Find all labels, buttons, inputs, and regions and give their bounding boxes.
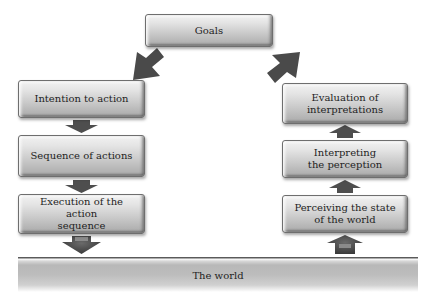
interpreting-the-perception-box: Interpreting the perception: [282, 140, 408, 178]
evaluation-line-1: Evaluation of: [307, 92, 383, 104]
arrow-interpreting-to-evaluation-icon: [329, 125, 361, 138]
perceiving-line-2: of the world: [294, 214, 395, 226]
interpreting-line-1: Interpreting: [308, 147, 382, 159]
intention-to-action-box: Intention to action: [18, 80, 145, 118]
evaluation-of-interpretations-box: Evaluation of interpretations: [282, 83, 408, 124]
sequence-of-actions-label: Sequence of actions: [25, 150, 139, 162]
arrow-perceiving-to-interpreting-icon: [329, 180, 361, 193]
arrow-intention-to-sequence-icon: [65, 120, 98, 133]
world-bar: The world: [18, 257, 418, 292]
interpreting-line-2: the perception: [308, 159, 382, 171]
execution-line-1: Execution of the action: [25, 196, 138, 220]
world-label: The world: [192, 270, 243, 281]
sequence-of-actions-box: Sequence of actions: [18, 135, 145, 177]
execution-of-action-sequence-box: Execution of the action sequence: [18, 194, 145, 234]
evaluation-line-2: interpretations: [307, 104, 383, 116]
arrow-goals-to-intention-icon: [133, 48, 164, 80]
goals-label: Goals: [189, 25, 229, 37]
arrow-world-to-perceiving-icon: [327, 235, 363, 254]
execution-of-action-sequence-label: Execution of the action sequence: [19, 196, 144, 232]
arrow-evaluation-to-goals-icon: [267, 52, 300, 83]
perceiving-state-of-world-label: Perceiving the state of the world: [288, 202, 401, 226]
perceiving-line-1: Perceiving the state: [294, 202, 395, 214]
arrow-sequence-to-execution-icon: [65, 180, 98, 193]
goals-box: Goals: [145, 14, 273, 47]
evaluation-of-interpretations-label: Evaluation of interpretations: [301, 92, 389, 116]
intention-to-action-label: Intention to action: [28, 93, 134, 105]
perceiving-state-of-world-box: Perceiving the state of the world: [282, 195, 408, 233]
execution-line-2: sequence: [25, 220, 138, 232]
interpreting-the-perception-label: Interpreting the perception: [302, 147, 388, 171]
arrow-execution-to-world-icon: [62, 236, 101, 254]
